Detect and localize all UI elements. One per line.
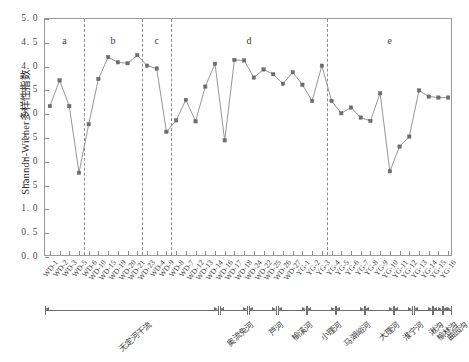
data-point-marker [388,170,391,173]
data-point-marker [398,145,401,148]
x-tick-mark [244,251,245,255]
data-point-marker [58,79,61,82]
x-tick-mark [264,251,265,255]
data-point-marker [233,58,236,61]
x-tick-mark [205,251,206,255]
y-tick-label: 3. 0 [4,108,38,118]
x-tick-mark [448,251,449,255]
x-tick-mark [302,251,303,255]
data-point-marker [116,61,119,64]
data-point-marker [330,99,333,102]
x-tick-mark [69,251,70,255]
data-point-marker [262,68,265,71]
data-point-marker [213,62,216,65]
zone-divider [84,19,85,255]
y-tick-mark [45,162,49,163]
group-arrow-left [278,307,282,311]
zone-divider [327,19,328,255]
x-tick-mark [322,251,323,255]
y-tick-mark [45,209,49,210]
data-point-marker [174,119,177,122]
group-label: 芦河 [265,318,285,338]
x-tick-mark [79,251,80,255]
y-tick-label: 0. 5 [4,227,38,237]
y-tick-label: 2. 5 [4,132,38,142]
group-label: 马湖峪河 [340,318,372,348]
x-tick-mark [400,251,401,255]
x-tick-mark [157,251,158,255]
data-point-marker [126,62,129,65]
y-tick-label: 1. 0 [4,203,38,213]
group-arrow-left [307,307,311,311]
group-arrow-left [220,307,224,311]
data-point-marker [136,53,139,56]
plot-area: abcde [44,18,452,256]
x-tick-mark [186,251,187,255]
group-arrow-right [272,307,276,311]
zone-label-b: b [111,35,116,46]
data-point-marker [48,104,51,107]
x-tick-mark [147,251,148,255]
group-label: 无定河干流 [116,318,154,354]
zone-divider [171,19,172,255]
x-tick-mark [118,251,119,255]
group-arrow-right [302,307,306,311]
x-tick-mark [98,251,99,255]
data-point-marker [165,130,168,133]
group-arrow-right [214,307,218,311]
x-tick-mark [215,251,216,255]
data-point-marker [281,82,284,85]
group-arrow-right [243,307,247,311]
x-tick-mark [137,251,138,255]
x-tick-mark [380,251,381,255]
data-point-marker [437,96,440,99]
group-arrow-right [360,307,364,311]
data-point-marker [417,89,420,92]
x-tick-mark [166,251,167,255]
x-tick-mark [390,251,391,255]
x-tick-mark [293,251,294,255]
y-tick-label: 1. 5 [4,180,38,190]
y-tick-mark [45,90,49,91]
zone-label-e: e [388,35,392,46]
x-tick-mark [419,251,420,255]
data-point-marker [252,76,255,79]
data-point-marker [77,171,80,174]
group-label: 榆溪河 [288,318,314,343]
data-point-marker [223,139,226,142]
group-label: 大理河 [375,318,401,343]
group-arrow-right [447,307,451,311]
x-tick-mark [60,251,61,255]
data-point-marker [291,71,294,74]
zone-label-a: a [62,35,66,46]
data-point-marker [320,64,323,67]
data-point-marker [184,98,187,101]
group-labels: 无定河干流奥流兔河芦河榆溪河小理河马湖峪河大理河淮宁河湫沟榆林沟曲园沟 [44,318,452,362]
zone-label-c: c [154,35,158,46]
group-arrow-left [45,307,49,311]
x-tick-mark [273,251,274,255]
group-arrow-right [331,307,335,311]
data-point-marker [301,83,304,86]
x-tick-mark [283,251,284,255]
x-tick-mark [225,251,226,255]
x-tick-mark [438,251,439,255]
data-point-marker [242,59,245,62]
x-tick-mark [176,251,177,255]
group-arrow-left [249,307,253,311]
y-tick-mark [45,138,49,139]
x-tick-mark [128,251,129,255]
group-arrow-left [394,307,398,311]
x-tick-mark [409,251,410,255]
data-point-marker [310,99,313,102]
x-tick-mark [429,251,430,255]
data-point-marker [408,135,411,138]
data-point-marker [145,64,148,67]
data-point-marker [106,55,109,58]
zone-label-d: d [247,35,252,46]
x-tick-mark [254,251,255,255]
data-series-line [45,19,453,257]
data-point-marker [87,123,90,126]
data-point-marker [340,112,343,115]
